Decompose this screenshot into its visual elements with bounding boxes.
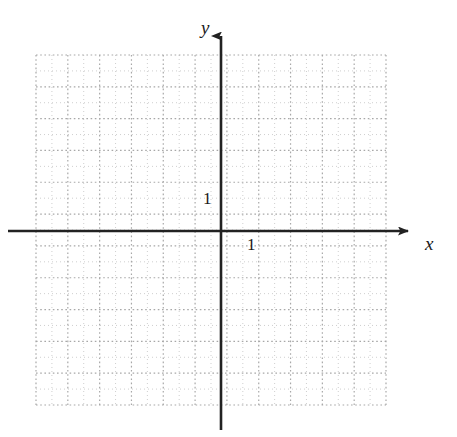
y-axis-unit-tick-label: 1 (203, 190, 212, 207)
coordinate-plane-figure: y x 1 1 (0, 0, 457, 437)
x-axis-label: x (425, 234, 433, 253)
grid-and-axes (0, 0, 457, 437)
x-axis-unit-tick-label: 1 (247, 236, 256, 253)
y-axis-label: y (201, 18, 209, 37)
figure-background (0, 0, 457, 437)
